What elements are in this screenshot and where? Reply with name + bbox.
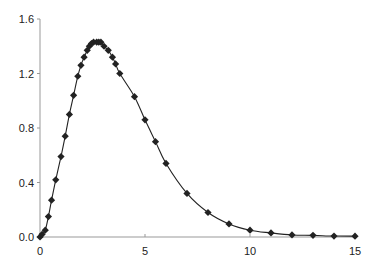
data-point-diamond	[66, 111, 73, 118]
y-tick-label: 0.0	[19, 231, 34, 243]
data-point-diamond	[116, 70, 123, 77]
data-point-diamond	[267, 229, 274, 236]
series-line	[40, 42, 355, 237]
data-point-diamond	[141, 116, 148, 123]
data-point-diamond	[131, 93, 138, 100]
chart: 0.00.40.81.21.6051015	[0, 0, 375, 273]
data-point-diamond	[351, 233, 358, 240]
y-tick-label: 0.4	[19, 177, 34, 189]
data-point-diamond	[112, 60, 119, 67]
data-point-diamond	[162, 160, 169, 167]
data-point-diamond	[152, 138, 159, 145]
data-point-diamond	[57, 153, 64, 160]
y-tick-label: 1.2	[19, 68, 34, 80]
y-tick-label: 0.8	[19, 122, 34, 134]
series-markers	[36, 39, 358, 241]
tick-labels: 0.00.40.81.21.6051015	[19, 13, 361, 257]
data-point-diamond	[45, 213, 52, 220]
data-point-diamond	[48, 197, 55, 204]
data-point-diamond	[62, 133, 69, 140]
data-point-diamond	[330, 232, 337, 239]
y-tick-label: 1.6	[19, 13, 34, 25]
x-tick-label: 5	[142, 245, 148, 257]
data-point-diamond	[81, 54, 88, 61]
data-point-diamond	[77, 62, 84, 69]
x-tick-label: 15	[349, 245, 361, 257]
data-point-diamond	[70, 92, 77, 99]
data-point-diamond	[246, 227, 253, 234]
data-point-diamond	[74, 73, 81, 80]
data-point-diamond	[52, 176, 59, 183]
data-point-diamond	[225, 220, 232, 227]
data-point-diamond	[109, 54, 116, 61]
x-tick-label: 0	[37, 245, 43, 257]
x-tick-label: 10	[244, 245, 256, 257]
data-point-diamond	[309, 232, 316, 239]
